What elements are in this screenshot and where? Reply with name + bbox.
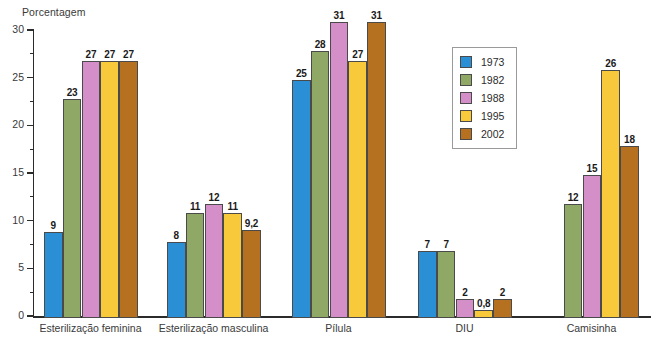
bar: 2: [456, 299, 475, 318]
legend-swatch: [460, 92, 472, 104]
legend-item: 1995: [460, 107, 504, 125]
bar-value-label: 9,2: [245, 218, 258, 229]
bar: 8: [167, 242, 186, 318]
bar: 7: [437, 251, 456, 318]
x-axis-category-label: Camisinha: [482, 322, 665, 334]
plot-area: 92327272781112119,225283127317720,821215…: [34, 20, 651, 317]
bar: 2: [493, 299, 512, 318]
legend-swatch: [460, 56, 472, 68]
bar: 26: [601, 70, 620, 318]
bar-value-label: 15: [587, 163, 598, 174]
bar: 0,8: [474, 310, 493, 318]
bar: 12: [564, 204, 583, 318]
bar: 31: [367, 22, 386, 318]
bar-value-label: 7: [443, 239, 448, 250]
bar-value-label: 27: [123, 49, 134, 60]
legend-label: 1973: [481, 56, 504, 68]
y-tick-major: [27, 315, 34, 316]
bar-value-label: 31: [371, 10, 382, 21]
legend-label: 1995: [481, 110, 504, 122]
bar-chart: Porcentagem 051015202530 923272727811121…: [0, 0, 665, 357]
bar-value-label: 26: [605, 58, 616, 69]
bar-value-label: 27: [352, 49, 363, 60]
bar: 27: [82, 61, 101, 318]
bar: 27: [100, 61, 119, 318]
y-tick-major: [27, 268, 34, 269]
y-tick-major: [27, 29, 34, 30]
bar-value-label: 27: [86, 49, 97, 60]
bar: 12: [205, 204, 224, 318]
bar-value-label: 28: [315, 39, 326, 50]
y-tick-label: 10: [2, 214, 24, 226]
bar-value-label: 0,8: [477, 298, 490, 309]
y-tick-major: [27, 125, 34, 126]
bar: 9,2: [242, 230, 261, 318]
y-tick-major: [27, 220, 34, 221]
bar: 25: [292, 80, 311, 318]
legend-label: 1982: [481, 74, 504, 86]
bar: 31: [330, 22, 349, 318]
bar-value-label: 27: [104, 49, 115, 60]
legend-label: 2002: [481, 128, 504, 140]
legend-swatch: [460, 74, 472, 86]
y-tick-label: 20: [2, 118, 24, 130]
bar: 27: [348, 61, 367, 318]
legend: 19731982198819952002: [452, 47, 517, 149]
y-tick-major: [27, 172, 34, 173]
y-tick-label: 15: [2, 166, 24, 178]
y-tick-label: 30: [2, 23, 24, 35]
y-tick-label: 25: [2, 71, 24, 83]
legend-item: 1982: [460, 71, 504, 89]
bar-value-label: 12: [568, 192, 579, 203]
bar-value-label: 8: [174, 230, 179, 241]
bar: 28: [311, 51, 330, 318]
bar-value-label: 7: [425, 239, 430, 250]
bar-value-label: 11: [228, 201, 238, 212]
bar: 9: [44, 232, 63, 318]
bar: 7: [418, 251, 437, 318]
legend-item: 1988: [460, 89, 504, 107]
bar-value-label: 23: [67, 87, 78, 98]
bar-value-label: 9: [51, 220, 56, 231]
bar-value-label: 18: [624, 134, 635, 145]
bar-value-label: 31: [334, 10, 345, 21]
bar-value-label: 2: [500, 287, 505, 298]
legend-item: 1973: [460, 53, 504, 71]
bar: 27: [119, 61, 138, 318]
y-tick-label: 5: [2, 261, 24, 273]
y-tick-label: 0: [2, 309, 24, 321]
bar: 15: [583, 175, 602, 318]
bar-group: 81112119,2: [167, 20, 260, 317]
bar-value-label: 12: [209, 192, 220, 203]
legend-item: 2002: [460, 125, 504, 143]
bar: 11: [186, 213, 205, 318]
bar-value-label: 11: [190, 201, 200, 212]
y-tick-major: [27, 77, 34, 78]
y-axis-title: Porcentagem: [22, 6, 86, 18]
bar: 23: [63, 99, 82, 318]
bar-value-label: 2: [462, 287, 467, 298]
legend-swatch: [460, 128, 472, 140]
bar-group: 923272727: [44, 20, 137, 317]
bar-group: 12152618: [545, 20, 638, 317]
bar-value-label: 25: [296, 68, 307, 79]
bar: 11: [223, 213, 242, 318]
bar-group: 2528312731: [292, 20, 385, 317]
legend-label: 1988: [481, 92, 504, 104]
bar: 18: [620, 146, 639, 318]
legend-swatch: [460, 110, 472, 122]
